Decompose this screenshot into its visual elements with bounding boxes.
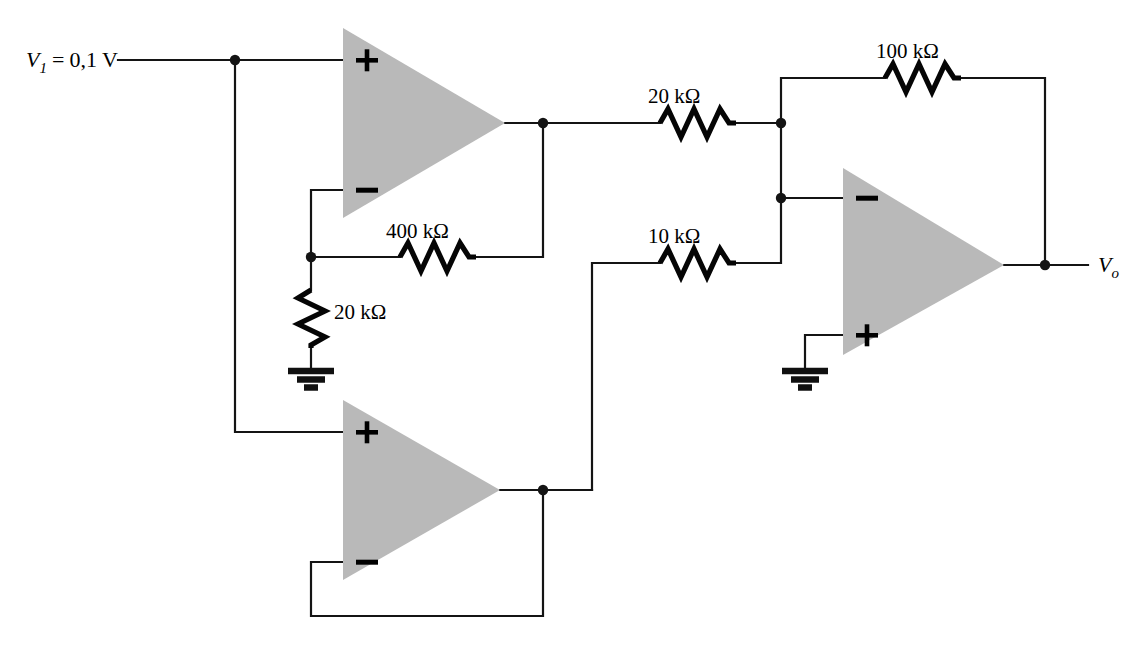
resistor-20k-input-label: 20 kΩ (648, 84, 700, 108)
wire-opamp2-to-10k (592, 263, 660, 490)
resistor-100k-symbol (885, 64, 961, 92)
circuit-diagram: V1=0,1 V Vo 400 kΩ 20 kΩ 20 kΩ 10 kΩ 100… (0, 0, 1138, 655)
ground-left-icon (288, 371, 334, 388)
node-opamp2-output-dot (538, 485, 548, 495)
resistor-20k-vertical-symbol (298, 290, 325, 348)
wire-opamp3-plus-to-ground (805, 335, 843, 370)
wire-100k-right-lead (961, 78, 1045, 265)
input-source-label: V1=0,1 V (26, 47, 118, 76)
resistor-400k-symbol (400, 243, 476, 271)
wire-opamp1-minus-to-divider (311, 190, 343, 257)
opamp-bottom-left-minus-icon (356, 560, 378, 565)
opamp-top-left-minus-icon (356, 188, 378, 193)
input-source-equals: = (52, 47, 64, 72)
resistor-20k-input-symbol (660, 109, 736, 137)
node-output-right-dot (1040, 260, 1050, 270)
wire-100k-left-lead (781, 78, 885, 123)
node-summing-minus-dot (776, 193, 786, 203)
input-source-subscript: 1 (39, 60, 47, 76)
resistor-10k-symbol (660, 249, 736, 277)
output-label: Vo (1098, 252, 1119, 281)
resistor-400k-label: 400 kΩ (386, 219, 449, 243)
resistor-100k-label: 100 kΩ (876, 39, 939, 63)
node-divider-dot (306, 252, 316, 262)
resistor-20k-vertical-label: 20 kΩ (334, 300, 386, 324)
ground-right-icon (782, 371, 828, 388)
node-input-split-dot (230, 55, 240, 65)
wire-400k-right-lead (476, 123, 543, 257)
wire-input-to-opamp2-plus (235, 60, 343, 432)
node-opamp1-output-dot (538, 118, 548, 128)
node-summing-top-dot (776, 118, 786, 128)
resistor-10k-label: 10 kΩ (648, 224, 700, 248)
input-source-value: 0,1 V (69, 47, 118, 72)
opamp-right-minus-icon (856, 196, 878, 201)
wire-10k-to-summing-minus (736, 198, 781, 263)
circuit-canvas: V1=0,1 V Vo 400 kΩ 20 kΩ 20 kΩ 10 kΩ 100… (0, 0, 1138, 655)
output-subscript: o (1111, 265, 1119, 281)
